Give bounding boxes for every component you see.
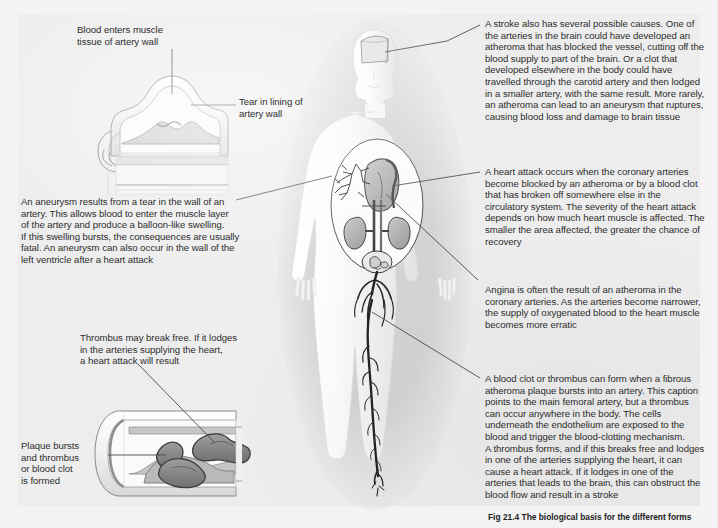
- figure-page: Blood enters muscle tissue of artery wal…: [0, 0, 718, 528]
- stroke-description: A stroke also has several possible cause…: [485, 18, 717, 122]
- plaque-bursts-label: Plaque bursts and thrombus or blood clot…: [21, 440, 113, 486]
- aneurysm-description: An aneurysm results from a tear in the w…: [21, 196, 289, 266]
- figure-caption-number: Fig 21.4: [488, 512, 519, 522]
- figure-caption-text: The biological basis for the different f…: [522, 512, 692, 522]
- thrombus-description: A blood clot or thrombus can form when a…: [485, 373, 717, 501]
- tear-in-lining-label: Tear in lining of artery wall: [239, 96, 359, 119]
- figure-caption: Fig 21.4 The biological basis for the di…: [488, 512, 713, 528]
- blood-enters-muscle-tissue-label: Blood enters muscle tissue of artery wal…: [77, 24, 227, 47]
- thrombus-may-break-free-label: Thrombus may break free. If it lodges in…: [80, 332, 330, 367]
- angina-description: Angina is often the result of an atherom…: [485, 284, 717, 330]
- heart-attack-description: A heart attack occurs when the coronary …: [485, 166, 717, 247]
